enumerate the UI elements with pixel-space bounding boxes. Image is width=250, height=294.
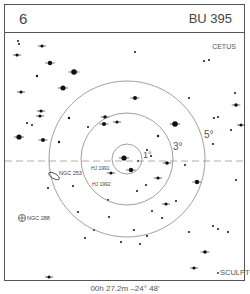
star — [68, 117, 70, 119]
star — [184, 164, 186, 166]
star — [134, 51, 136, 53]
star — [17, 40, 19, 42]
constellation-cetus-label: CETUS — [212, 43, 236, 50]
star — [108, 216, 110, 218]
star — [212, 225, 214, 227]
star — [87, 126, 89, 128]
star — [133, 229, 135, 231]
star — [139, 243, 141, 245]
ring-5-label: 5° — [204, 129, 214, 140]
star — [217, 116, 219, 118]
star — [84, 237, 86, 239]
star — [161, 217, 163, 219]
hj1992-label: HJ 1992 — [92, 181, 111, 187]
star — [227, 231, 229, 233]
star — [208, 59, 210, 61]
sculptor-marker — [217, 272, 219, 274]
star — [47, 187, 49, 189]
globular-cluster-ngc288-icon — [19, 215, 26, 222]
ngc253-label: NGC 253 — [59, 170, 82, 176]
star — [18, 43, 20, 45]
star — [188, 97, 190, 99]
star — [217, 228, 219, 230]
ring-3-label: 3° — [173, 141, 183, 152]
star — [136, 190, 138, 192]
star — [188, 231, 190, 233]
star — [230, 129, 232, 131]
star — [72, 185, 74, 187]
star — [145, 184, 147, 186]
constellation-sculptor-label: SCULPTOR — [220, 268, 250, 277]
star — [213, 117, 215, 119]
ring-1-deg — [112, 144, 142, 174]
star — [203, 60, 205, 62]
star — [120, 241, 122, 243]
hj1991-label: HJ 1991 — [91, 165, 110, 171]
ring-3-deg — [81, 113, 173, 205]
chart-coordinates: 00h 27.2m –24° 48' — [0, 284, 250, 293]
star — [235, 179, 237, 181]
stars-layer — [13, 40, 245, 279]
star — [77, 211, 79, 213]
star — [26, 122, 28, 124]
ring-1-label: 1° — [143, 150, 152, 160]
star — [31, 124, 33, 126]
ring-5-deg — [49, 81, 205, 237]
star — [212, 143, 214, 145]
star — [58, 141, 60, 143]
star — [36, 75, 38, 77]
star — [234, 92, 236, 94]
star — [151, 210, 153, 212]
star — [175, 200, 177, 202]
ngc288-label: NGC 288 — [27, 215, 50, 221]
star-chart: CETUS SCULPTOR 1° 3° 5° NGC 253 NGC 288 … — [0, 0, 250, 294]
star — [146, 235, 148, 237]
star — [157, 135, 159, 137]
